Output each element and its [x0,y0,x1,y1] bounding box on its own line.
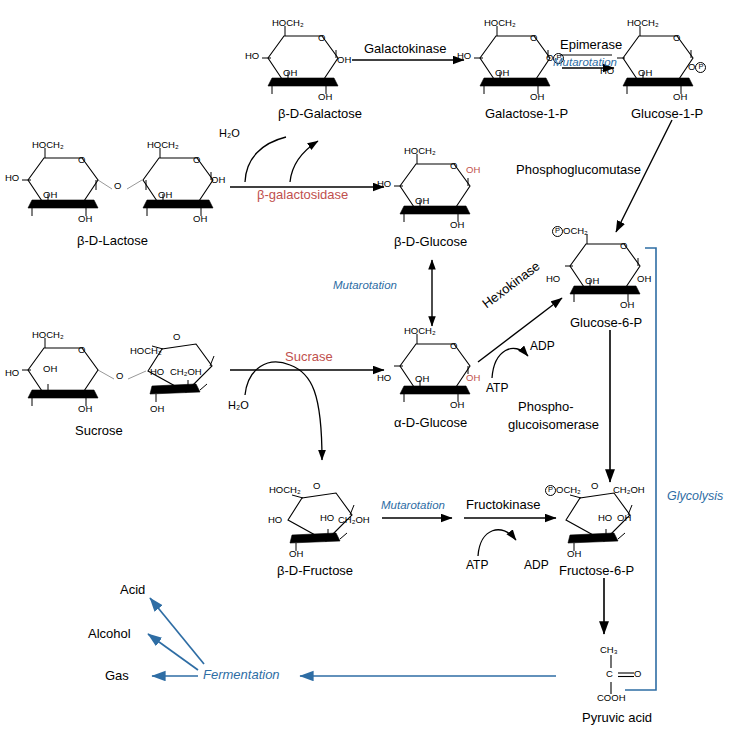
atom-o-galactose: O [318,33,325,43]
molecule-label-glucose-1-p: Glucose-1-P [631,107,703,120]
product-label-alcohol: Alcohol [88,627,131,640]
enzyme-label-hexokinase: Hexokinase [480,259,542,310]
atom-oh-lactose-b-c2: OH [193,214,207,224]
atom-oh-fructose6p-c3: OH [567,549,581,559]
atom-poch2-glucose6p: POCH₂ [552,226,588,237]
phosphate-circle-icon: P [695,62,706,73]
atom-ho-galactose: HO [245,51,259,61]
enzyme-label-phosphoglucoisomerase-line2: glucoisomerase [508,418,599,431]
atom-ho-fructose-c2: HO [320,513,334,523]
atom-oh-glucose6p-c1: OH [637,274,651,284]
atom-hoch2-lactose-b: HOCH₂ [147,140,179,150]
atom-ho-lactose-a: HO [5,173,19,183]
molecule-label-b-d-lactose: β-D-Lactose [77,234,148,247]
cofactor-label-atp-fructokinase: ATP [466,559,488,571]
atom-oh-a-glucose-c2: OH [450,400,464,410]
atom-oh-sucrose-glc-c2: OH [78,404,92,414]
atom-oh-galactose1p-c4: OH [495,68,509,78]
atom-o-lactose-a: O [78,155,85,165]
cofactor-label-adp-fructokinase: ADP [524,559,549,571]
atom-hoch2-lactose-a: HOCH₂ [32,140,64,150]
enzyme-label-epimerase: Epimerase [560,38,622,51]
atom-oh-galactose-c4: OH [283,68,297,78]
atom-hoch2-galactose: HOCH₂ [272,18,304,28]
atom-oh-glucose1p-c2: OH [673,92,687,102]
atom-oh-b-glucose-c4: OH [415,196,429,206]
molecule-label-b-d-glucose: β-D-Glucose [394,235,467,248]
atom-ch3-pyruvic: CH₃ [600,645,618,655]
atom-o-glycosidic-lactose: O [114,181,121,191]
atom-hoch2-sucrose-fru: HOCH₂ [130,346,162,356]
enzyme-label-galactokinase: Galactokinase [364,42,446,55]
atom-c-pyruvic: C [606,669,613,679]
atom-ho-sucrose-fru: HO [150,367,164,377]
product-label-acid: Acid [120,583,145,596]
atom-o-pyruvic: O [634,669,641,679]
molecule-label-pyruvic-acid: Pyruvic acid [582,711,652,724]
process-label-mutarotation-fructose: Mutarotation [381,500,445,512]
molecule-label-a-d-glucose: α-D-Glucose [394,416,467,429]
phosphate-circle-icon: P [552,226,563,237]
enzyme-label-phosphoglucomutase: Phosphoglucomutase [516,163,641,176]
atom-oh-galactose-c1: OH [337,55,351,65]
atom-oh-galactose-c2: OH [318,92,332,102]
atom-oh-glucose6p-c2: OH [620,300,634,310]
atom-oh-a-glucose-anomeric: OH [466,373,480,383]
atom-ho-fructose6p: HO [598,513,612,523]
atom-ch2oh-sucrose-fru: CH₂OH [170,367,202,377]
atom-poch2-fructose6p: POCH₂ [545,485,581,496]
molecule-label-fructose-6-p: Fructose-6-P [559,564,634,577]
enzyme-label-fructokinase: Fructokinase [466,498,540,511]
atom-oh-glucose6p-c4: OH [585,276,599,286]
atom-o-b-glucose: O [450,161,457,171]
atom-o-fructose: O [313,481,320,491]
atom-oh-lactose-a-c4: OH [43,190,57,200]
atom-oh-lactose-b-c1: OH [211,175,225,185]
atom-oh-lactose-b-c4: OH [158,190,172,200]
process-label-mutarotation-mid: Mutarotation [333,280,397,292]
atom-hoch2-a-glucose: HOCH₂ [404,326,436,336]
atom-ho-b-glucose: HO [377,179,391,189]
molecule-label-glucose-6-p: Glucose-6-P [570,316,642,329]
product-label-gas: Gas [105,669,129,682]
atom-oh-fructose6p-c2: OH [617,513,631,523]
atom-cooh-pyruvic: COOH [597,693,626,703]
process-label-fermentation: Fermentation [203,668,280,681]
process-label-glycolysis: Glycolysis [667,490,723,503]
atom-hoch2-galactose1p: HOCH₂ [484,18,516,28]
atom-o-glycosidic-sucrose: O [116,371,123,381]
diagram-canvas: HOCH₂ O HO OH OH OH β-D-Galactose Galact… [0,0,733,734]
atom-o-a-glucose: O [450,341,457,351]
atom-ch2oh-fructose6p: CH₂OH [613,485,645,495]
atom-o-glucose1p: O [673,33,680,43]
atom-ho-glucose6p: HO [546,274,560,284]
atom-op-glucose1p: OP [688,62,706,73]
atom-hoch2-glucose1p: HOCH₂ [627,18,659,28]
atom-o-sucrose-fru: O [173,332,180,342]
molecule-label-b-d-galactose: β-D-Galactose [278,107,362,120]
atom-oh-fructose-c3: OH [289,549,303,559]
atom-oh-lactose-a-c2: OH [78,214,92,224]
atom-o-lactose-b: O [193,155,200,165]
atom-ho-fructose: HO [268,515,282,525]
atom-oh-b-glucose-c2: OH [450,220,464,230]
diagram-lineart [0,0,733,734]
atom-ho-glucose1p: HO [600,66,614,76]
atom-oh-galactose1p-c2: OH [530,92,544,102]
molecule-label-b-d-fructose: β-D-Fructose [277,564,353,577]
atom-ho-sucrose-glc: HO [5,368,19,378]
atom-hoch2-sucrose-glc: HOCH₂ [32,330,64,340]
atom-oh-b-glucose-anomeric: OH [466,165,480,175]
atom-oh-glucose1p-c4: OH [638,68,652,78]
enzyme-label-phosphoglucoisomerase-line1: Phospho- [518,400,574,413]
cofactor-label-adp-hexokinase: ADP [530,340,555,352]
atom-oh-sucrose-fru-c3: OH [150,404,164,414]
atom-o-sucrose-glc: O [78,345,85,355]
cofactor-label-water-sucrose: H₂O [228,400,249,411]
atom-hoch2-b-glucose: HOCH₂ [404,146,436,156]
atom-oh-sucrose-glc-c4: OH [43,364,57,374]
atom-ch2oh-fructose: CH₂OH [338,515,370,525]
atom-oh-a-glucose-c4: OH [415,374,429,384]
atom-o-galactose1p: O [530,33,537,43]
atom-ho-a-glucose: HO [377,373,391,383]
